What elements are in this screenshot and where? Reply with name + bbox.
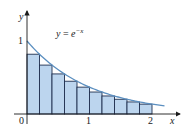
x-tick-label-0: 0	[19, 115, 24, 126]
riemann-rectangle-2	[40, 65, 53, 114]
y-tick-label-1: 1	[18, 35, 23, 46]
riemann-rectangle-1	[27, 54, 40, 114]
function-label-eq: =	[60, 28, 71, 39]
x-axis-label: x	[169, 115, 175, 126]
function-label-exponent: −x	[76, 27, 85, 35]
riemann-rectangle-9	[127, 102, 140, 114]
riemann-rectangle-4	[65, 81, 78, 114]
riemann-rectangle-3	[52, 74, 65, 114]
riemann-rectangle-10	[140, 104, 153, 114]
riemann-rectangle-7	[102, 96, 115, 114]
riemann-rectangle-5	[77, 87, 90, 114]
riemann-rectangles	[27, 54, 152, 114]
riemann-sum-chart: y x 0 1 2 1 y = e−x	[0, 0, 187, 126]
y-axis-label: y	[18, 11, 24, 22]
function-label: y = e−x	[55, 27, 84, 39]
riemann-rectangle-6	[90, 92, 103, 114]
riemann-rectangle-8	[115, 99, 128, 114]
x-tick-label-1: 1	[86, 115, 91, 126]
x-tick-label-2: 2	[148, 115, 153, 126]
